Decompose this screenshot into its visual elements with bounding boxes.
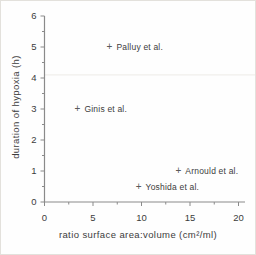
x-axis-title: ratio surface area:volume (cm²/ml) — [59, 229, 217, 240]
x-tick-label: 20 — [233, 212, 244, 223]
y-axis-title: duration of hypoxia (h) — [10, 55, 21, 159]
data-point-label: Arnould et al. — [185, 166, 238, 176]
data-point-label: Yoshida et al. — [146, 182, 200, 192]
x-tick-label: 5 — [90, 212, 95, 223]
chart-canvas: 051015200123456+Palluy et al.+Ginis et a… — [1, 1, 256, 255]
x-tick-label: 10 — [136, 212, 147, 223]
data-point-marker: + — [175, 165, 181, 176]
data-point-marker: + — [107, 41, 113, 52]
x-tick-label: 15 — [185, 212, 196, 223]
y-tick-label: 5 — [31, 41, 36, 52]
y-tick-label: 3 — [31, 103, 36, 114]
data-point-marker: + — [75, 103, 81, 114]
y-tick-label: 0 — [31, 196, 36, 207]
y-tick-label: 6 — [31, 10, 36, 21]
scatter-plot-figure: 051015200123456+Palluy et al.+Ginis et a… — [0, 0, 256, 255]
y-tick-label: 4 — [31, 72, 36, 83]
data-point-label: Palluy et al. — [116, 42, 163, 52]
y-tick-label: 2 — [31, 134, 36, 145]
data-point-label: Ginis et al. — [84, 104, 127, 114]
y-tick-label: 1 — [31, 165, 36, 176]
data-point-marker: + — [136, 181, 142, 192]
x-tick-label: 0 — [42, 212, 47, 223]
